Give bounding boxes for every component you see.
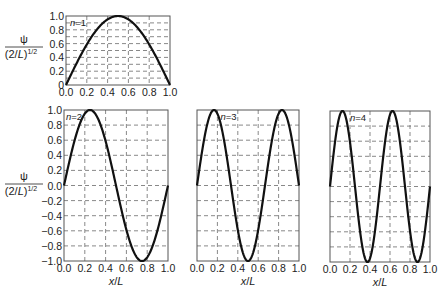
x-tick-label: 0.8 (140, 262, 155, 274)
y-tick-label: 0 (58, 79, 64, 91)
y-tick-label: 1.0 (49, 10, 64, 22)
x-tick-label: 0.6 (119, 262, 134, 274)
x-tick-label: 0.0 (190, 262, 205, 274)
x-tick-label: 1.0 (292, 262, 307, 274)
plot-n4: n=40.00.20.40.60.81.0 (323, 111, 438, 275)
x-tick-label: 1.0 (163, 86, 178, 98)
y-axis-label: ψ(2/L)1/2 (5, 170, 43, 197)
x-tick-label: 0.6 (251, 262, 266, 274)
x-axis-label: x/L (240, 275, 256, 287)
x-tick-label: 0.6 (383, 263, 398, 275)
plot-n3: n=30.00.20.40.60.81.0 (190, 110, 307, 274)
x-axis-label: x/L (108, 275, 124, 287)
y-tick-label: −0.4 (41, 210, 62, 222)
x-tick-label: 0.8 (403, 263, 418, 275)
x-axis-label: x/L (372, 276, 388, 288)
y-axis-label: ψ(2/L)1/2 (5, 33, 43, 60)
y-tick-label: 0.4 (49, 51, 64, 63)
y-tick-label: 0.2 (49, 65, 64, 77)
x-tick-label: 0.2 (79, 86, 94, 98)
x-tick-label: 0.4 (363, 263, 378, 275)
quantum-number-label: n=4 (350, 112, 366, 123)
y-tick-label: 0.6 (49, 38, 64, 50)
x-tick-label: 0.0 (323, 263, 338, 275)
wavefunction-figure: n=10.00.20.40.60.81.000.20.40.60.81.0n=2… (0, 0, 444, 291)
y-label-denominator: (2/L)1/2 (5, 185, 37, 197)
y-tick-label: −0.6 (41, 225, 62, 237)
quantum-number-label: n=2 (66, 111, 82, 122)
x-tick-label: 0.6 (121, 86, 136, 98)
x-tick-label: 0.8 (142, 86, 157, 98)
grid (197, 110, 299, 261)
y-tick-label: 1.0 (47, 104, 62, 116)
plot-n2: n=20.00.20.40.60.81.01.00.80.60.40.20.0−… (41, 104, 175, 274)
plot-n1: n=10.00.20.40.60.81.000.20.40.60.81.0 (49, 10, 177, 98)
y-tick-label: −1.0 (41, 255, 62, 267)
y-tick-label: 0.8 (49, 24, 64, 36)
x-tick-label: 0.4 (230, 262, 245, 274)
y-tick-label: −0.8 (41, 240, 62, 252)
x-tick-label: 0.8 (271, 262, 286, 274)
y-tick-label: 0.8 (47, 119, 62, 131)
y-label-numerator: ψ (20, 33, 28, 45)
y-tick-label: 0.4 (47, 149, 62, 161)
x-tick-label: 1.0 (423, 263, 438, 275)
y-label-denominator: (2/L)1/2 (5, 48, 37, 60)
quantum-number-label: n=3 (220, 111, 236, 122)
x-tick-label: 1.0 (161, 262, 176, 274)
y-tick-label: −0.2 (41, 195, 62, 207)
y-tick-label: 0.2 (47, 164, 62, 176)
x-tick-label: 0.4 (100, 86, 115, 98)
y-tick-label: 0.0 (47, 180, 62, 192)
x-tick-label: 0.2 (210, 262, 225, 274)
x-tick-label: 0.2 (77, 262, 92, 274)
y-tick-label: 0.6 (47, 134, 62, 146)
x-tick-label: 0.2 (343, 263, 358, 275)
quantum-number-label: n=1 (70, 17, 86, 28)
y-label-numerator: ψ (20, 170, 28, 182)
x-tick-label: 0.4 (98, 262, 113, 274)
